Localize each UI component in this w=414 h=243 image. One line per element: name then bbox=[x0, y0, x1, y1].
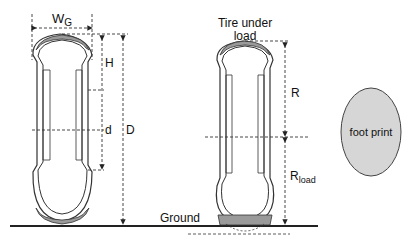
tread-top bbox=[220, 41, 270, 55]
footprint-label: foot print bbox=[350, 126, 393, 138]
ground-label: Ground bbox=[160, 211, 200, 225]
tread-top bbox=[36, 35, 89, 50]
width-label: WG bbox=[52, 11, 72, 28]
tread-bottom bbox=[36, 208, 89, 224]
tread-bottom-flattened bbox=[218, 215, 272, 225]
right-tire bbox=[188, 41, 290, 234]
tire-under-load-caption-line2: load bbox=[234, 29, 257, 43]
loaded-radius-label: Rload bbox=[290, 169, 316, 185]
radius-label: R bbox=[291, 86, 300, 100]
left-tire bbox=[33, 34, 92, 224]
overall-diameter-label: D bbox=[126, 123, 135, 137]
tire-under-load-caption-line1: Tire under bbox=[218, 16, 272, 30]
height-label: H bbox=[105, 56, 114, 70]
tire-dimension-diagram: WG H d D Tire under load R Rload Ground … bbox=[0, 0, 414, 243]
right-tire-dimensions bbox=[205, 41, 310, 222]
rim-diameter-label: d bbox=[105, 123, 112, 137]
